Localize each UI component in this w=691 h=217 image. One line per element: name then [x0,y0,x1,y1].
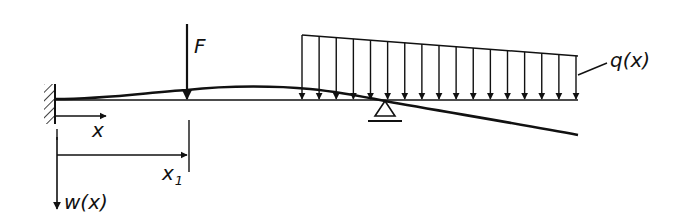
deflection-curve [55,87,578,136]
x1-label: x1 [162,163,183,187]
distributed-load [302,35,578,99]
beam-diagram [0,0,691,217]
deflection-label: w(x) [64,192,108,212]
load-arrows-icon [302,35,576,99]
x-axis-label: x [92,120,104,140]
qx-leader-line [578,63,607,75]
x1-label-base: x [162,161,174,185]
distributed-load-label: q(x) [610,50,650,70]
fixed-support-icon [44,84,55,124]
force-label: F [194,36,206,56]
x1-label-subscript: 1 [175,173,183,188]
